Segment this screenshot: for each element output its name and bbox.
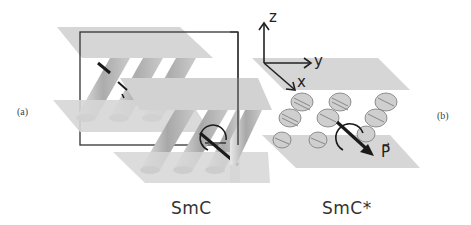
axis-label-x: x [297, 73, 306, 91]
diagram-graphic [0, 0, 471, 225]
axis-label-y: y [314, 52, 323, 70]
phase-label-smcstar: SmC* [322, 198, 372, 218]
panel-label-a: (a) [17, 106, 28, 117]
smectic-diagram: (a) (b) z y x P⃗ SmC SmC* [0, 0, 471, 225]
axis-label-z: z [269, 8, 277, 26]
phase-label-smc: SmC [171, 198, 212, 218]
panel-b-smcstar [230, 23, 420, 183]
panel-a-smc [53, 27, 240, 183]
panel-label-b: (b) [437, 110, 449, 121]
smectic-layer-plane [113, 152, 240, 183]
smectic-layer-plane [120, 78, 240, 110]
polarization-label: P⃗ [381, 143, 390, 161]
